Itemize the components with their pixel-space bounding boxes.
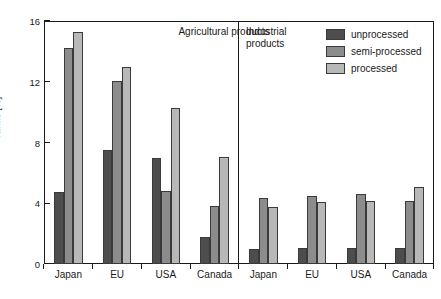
legend-item-semi-processed: semi-processed: [326, 43, 422, 59]
bar-processed-japan-industrial: [268, 207, 278, 264]
x-axis-label: Canada: [197, 269, 232, 280]
bar-unprocessed-japan-agricultural: [54, 192, 64, 264]
y-tick-mark: [44, 142, 50, 143]
bar-unprocessed-eu-industrial: [298, 248, 308, 264]
x-tick-mark: [141, 264, 142, 269]
y-tick-mark: [44, 81, 50, 82]
x-axis-label: Canada: [392, 269, 427, 280]
bar-processed-usa-agricultural: [171, 108, 181, 264]
x-tick-mark: [336, 264, 337, 269]
y-tick-mark: [44, 203, 50, 204]
y-axis-label: Tariffs [%]: [0, 97, 2, 140]
x-tick-mark: [433, 264, 434, 269]
x-tick-mark: [385, 264, 386, 269]
bar-processed-usa-industrial: [366, 201, 376, 264]
y-tick-label: 8: [16, 137, 40, 148]
legend-label: semi-processed: [351, 46, 422, 57]
chart-legend: unprocessedsemi-processedprocessed: [326, 26, 422, 77]
x-tick-mark: [287, 264, 288, 269]
bar-semi-processed-usa-industrial: [356, 194, 366, 264]
x-axis-label: EU: [305, 269, 319, 280]
section-divider: [238, 21, 239, 264]
bar-semi-processed-usa-agricultural: [161, 191, 171, 264]
bar-semi-processed-japan-agricultural: [64, 48, 74, 264]
y-tick-mark: [44, 20, 50, 21]
bar-unprocessed-eu-agricultural: [103, 150, 113, 264]
bar-unprocessed-usa-agricultural: [152, 158, 162, 264]
legend-label: processed: [351, 63, 397, 74]
legend-swatch-processed: [326, 63, 345, 74]
y-tick-label: 0: [16, 259, 40, 270]
legend-label: unprocessed: [351, 29, 408, 40]
legend-swatch-unprocessed: [326, 29, 345, 40]
bar-processed-eu-agricultural: [122, 67, 132, 264]
x-axis-label: Japan: [55, 269, 82, 280]
bar-processed-eu-industrial: [317, 202, 327, 264]
x-tick-mark: [43, 264, 44, 269]
y-tick-label: 4: [16, 198, 40, 209]
y-tick-mark: [44, 263, 50, 264]
bar-semi-processed-canada-agricultural: [210, 206, 220, 264]
y-tick-label: 12: [16, 76, 40, 87]
bar-unprocessed-canada-agricultural: [200, 237, 210, 264]
x-axis-label: USA: [351, 269, 372, 280]
bar-unprocessed-japan-industrial: [249, 249, 259, 264]
bar-processed-japan-agricultural: [73, 32, 83, 264]
x-axis-label: EU: [110, 269, 124, 280]
legend-item-processed: processed: [326, 60, 422, 76]
legend-swatch-semi-processed: [326, 46, 345, 57]
y-tick-label: 16: [16, 16, 40, 27]
x-axis-label: USA: [156, 269, 177, 280]
section-title-industrial: Industrial products: [246, 26, 287, 50]
bar-semi-processed-japan-industrial: [259, 198, 269, 264]
bar-semi-processed-eu-industrial: [307, 196, 317, 264]
x-axis-label: Japan: [250, 269, 277, 280]
bar-unprocessed-canada-industrial: [395, 248, 405, 264]
bar-unprocessed-usa-industrial: [347, 248, 357, 264]
legend-item-unprocessed: unprocessed: [326, 26, 422, 42]
x-tick-mark: [92, 264, 93, 269]
bar-semi-processed-eu-agricultural: [112, 81, 122, 264]
tariffs-bar-chart: Tariffs [%] 0481216 JapanEUUSACanadaJapa…: [0, 0, 441, 299]
bar-processed-canada-agricultural: [219, 157, 229, 264]
x-tick-mark: [190, 264, 191, 269]
x-tick-mark: [238, 264, 239, 269]
bar-processed-canada-industrial: [414, 187, 424, 264]
bar-semi-processed-canada-industrial: [405, 201, 415, 264]
